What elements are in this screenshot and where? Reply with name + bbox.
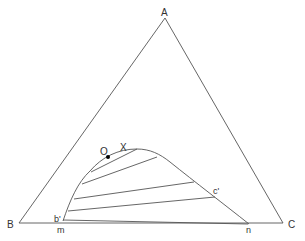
ternary-triangle [19, 18, 283, 223]
tie-line [74, 182, 194, 199]
point-label-o: O [100, 146, 108, 157]
point-label-n: n [246, 225, 251, 235]
point-label-m: m [57, 225, 65, 235]
point-label-b-prime: b' [54, 214, 61, 224]
vertex-label-c: C [288, 219, 295, 230]
tie-line [91, 149, 137, 172]
ternary-diagram: A B C O X b' c' m n [0, 0, 305, 241]
vertex-label-a: A [161, 7, 168, 18]
point-label-x: X [120, 142, 127, 153]
binodal-curve [63, 149, 249, 224]
tie-line [68, 197, 215, 211]
vertex-label-b: B [7, 219, 14, 230]
point-label-c-prime: c' [213, 186, 220, 196]
